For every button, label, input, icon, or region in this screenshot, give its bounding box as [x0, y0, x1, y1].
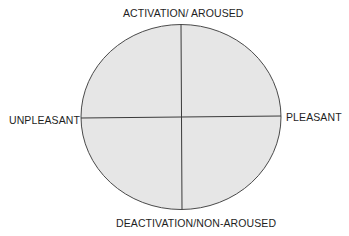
label-deactivation-non-aroused: DEACTIVATION/NON-AROUSED — [116, 218, 276, 229]
label-activation-aroused: ACTIVATION/ AROUSED — [123, 8, 244, 19]
label-unpleasant: UNPLEASANT — [9, 115, 80, 126]
label-pleasant: PLEASANT — [286, 112, 342, 123]
